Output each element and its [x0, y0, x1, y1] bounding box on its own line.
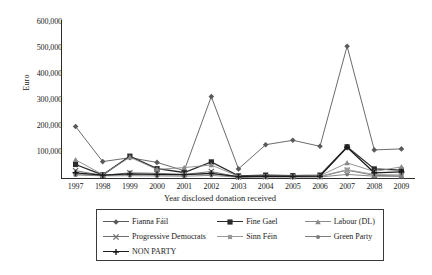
legend-label: Sinn Féin — [246, 232, 277, 241]
legend-label: NON PARTY — [132, 247, 176, 256]
chart-figure: Euro 100,000200,000300,000400,000500,000… — [0, 0, 432, 275]
legend-item[interactable]: NON PARTY — [103, 247, 223, 257]
legend-marker-small-square-icon — [217, 232, 243, 242]
y-tick-label: 400,000 — [6, 70, 62, 78]
y-tick-label: 300,000 — [6, 96, 62, 104]
legend-row: Progressive DemocratsSinn FéinGreen Part… — [103, 229, 377, 244]
series-lines — [62, 22, 415, 178]
legend-marker-circle-icon — [305, 232, 331, 242]
legend-item[interactable]: Labour (DL) — [305, 217, 377, 227]
y-axis-tick-labels: 100,000200,000300,000400,000500,000600,0… — [0, 0, 62, 190]
legend-marker-triangle-icon — [305, 217, 331, 227]
legend-item[interactable]: Sinn Féin — [217, 232, 305, 242]
x-axis-title: Year disclosed donation received — [70, 193, 370, 203]
legend-item[interactable]: Progressive Democrats — [103, 232, 217, 242]
legend-marker-diamond-icon — [103, 217, 129, 227]
legend-item[interactable]: Fianna Fáil — [103, 217, 217, 227]
legend-item[interactable]: Fine Gael — [217, 217, 305, 227]
x-tick-label: 2009 — [381, 182, 421, 191]
y-tick-label: 600,000 — [6, 18, 62, 26]
legend-item[interactable]: Green Party — [305, 232, 377, 242]
legend-marker-plus-icon — [103, 247, 129, 257]
legend-label: Fine Gael — [246, 217, 277, 226]
y-tick-label: 200,000 — [6, 122, 62, 130]
y-tick-label: 100,000 — [6, 148, 62, 156]
legend-label: Green Party — [334, 232, 372, 241]
legend-label: Progressive Democrats — [132, 232, 206, 241]
plot-area — [62, 22, 415, 178]
legend-marker-cross-x-icon — [103, 232, 129, 242]
y-tick-label: 500,000 — [6, 44, 62, 52]
legend-row: Fianna FáilFine GaelLabour (DL) — [103, 214, 377, 229]
legend-row: NON PARTY — [103, 244, 377, 259]
legend-label: Labour (DL) — [334, 217, 375, 226]
legend-label: Fianna Fáil — [132, 217, 168, 226]
chart-legend: Fianna FáilFine GaelLabour (DL)Progressi… — [96, 209, 384, 261]
legend-marker-square-icon — [217, 217, 243, 227]
